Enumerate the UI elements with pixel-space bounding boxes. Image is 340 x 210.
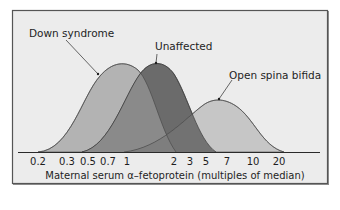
tick-label: 0.3 [59, 156, 75, 167]
tick-label: 10 [247, 156, 260, 167]
afp-distribution-chart: Down syndrome Unaffected Open spina bifi… [0, 0, 340, 210]
tick-label: 5 [203, 156, 209, 167]
label-unaffected: Unaffected [155, 40, 212, 52]
tick-label: 3 [187, 156, 193, 167]
label-spina-bifida: Open spina bifida [229, 69, 321, 81]
tick-label: 1 [124, 156, 130, 167]
tick-label: 0.7 [100, 156, 116, 167]
tick-label: 0.2 [30, 156, 46, 167]
tick-label: 0.5 [80, 156, 96, 167]
x-axis-title: Maternal serum α–fetoprotein (multiples … [45, 170, 304, 181]
tick-label: 20 [273, 156, 286, 167]
tick-label: 2 [171, 156, 177, 167]
tick-label: 7 [224, 156, 230, 167]
label-down-syndrome: Down syndrome [29, 27, 114, 39]
